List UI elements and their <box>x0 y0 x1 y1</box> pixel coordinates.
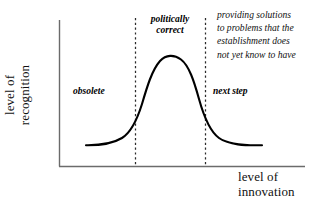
next-step-annotation: providing solutions to problems that the… <box>217 8 335 61</box>
recognition-curve <box>86 56 262 145</box>
region-label-obsolete: obsolete <box>73 86 105 97</box>
x-axis-title: level of innovation <box>238 170 334 199</box>
chart-figure: level of recognition level of innovation… <box>0 0 336 215</box>
y-axis-title: level of recognition <box>3 35 32 155</box>
region-label-politically-correct: politically correct <box>137 14 203 37</box>
region-label-next-step: next step <box>213 86 248 97</box>
